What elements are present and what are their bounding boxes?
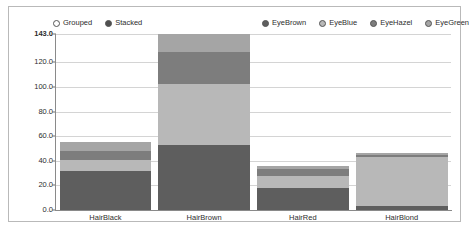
legend-marker-icon — [370, 20, 377, 27]
legend-marker-icon — [262, 20, 269, 27]
bar-segment-eyegreen[interactable] — [356, 153, 448, 154]
bar-segment-eyegreen[interactable] — [257, 166, 349, 170]
y-tick-label: 60.0 — [11, 132, 53, 140]
legend-label: EyeGreen — [435, 19, 469, 27]
bar-segment-eyebrown[interactable] — [356, 206, 448, 210]
bar-segment-eyegreen[interactable] — [60, 142, 152, 151]
plot-area — [56, 34, 451, 210]
legend-label: EyeBlue — [329, 19, 357, 27]
legend-label: EyeHazel — [380, 19, 412, 27]
legend-label: Grouped — [63, 19, 92, 27]
mode-legend-item-grouped[interactable]: Grouped — [53, 19, 92, 27]
bar-segment-eyeblue[interactable] — [257, 176, 349, 188]
bar-segment-eyehazel[interactable] — [60, 151, 152, 160]
mode-legend-item-stacked[interactable]: Stacked — [105, 19, 142, 27]
bar-segment-eyebrown[interactable] — [60, 171, 152, 210]
y-tick-label: 20.0 — [11, 182, 53, 190]
bar-segment-eyehazel[interactable] — [356, 155, 448, 157]
y-tick-label: 100.0 — [11, 83, 53, 91]
legend-label: EyeBrown — [272, 19, 306, 27]
legend-marker-icon — [319, 20, 326, 27]
bar-segment-eyeblue[interactable] — [356, 157, 448, 206]
x-tick-label: HairBlond — [352, 214, 451, 222]
x-tick-label: HairBlack — [56, 214, 155, 222]
series-legend-item-eyeblue[interactable]: EyeBlue — [319, 19, 357, 27]
x-axis-line — [55, 210, 452, 211]
y-tick-label: 40.0 — [11, 157, 53, 165]
series-legend-item-eyebrown[interactable]: EyeBrown — [262, 19, 306, 27]
x-tick-label: HairBrown — [155, 214, 254, 222]
bar-segment-eyebrown[interactable] — [158, 145, 250, 210]
series-legend[interactable]: EyeBrownEyeBlueEyeHazelEyeGreen — [262, 16, 469, 30]
chart-container: GroupedStacked EyeBrownEyeBlueEyeHazelEy… — [8, 6, 461, 222]
mode-legend[interactable]: GroupedStacked — [53, 16, 142, 30]
y-tick-label: 143.0 — [11, 30, 53, 38]
y-axis-labels: 143.0120.0100.080.060.040.020.00.0 — [9, 7, 53, 230]
y-tick-label: 0.0 — [11, 206, 53, 214]
y-tick-label: 120.0 — [11, 59, 53, 67]
legend-label: Stacked — [115, 19, 142, 27]
bar-segment-eyegreen[interactable] — [158, 34, 250, 52]
bar-segment-eyebrown[interactable] — [257, 188, 349, 210]
bar-segment-eyeblue[interactable] — [60, 160, 152, 171]
x-tick-label: HairRed — [254, 214, 353, 222]
series-legend-item-eyehazel[interactable]: EyeHazel — [370, 19, 412, 27]
bar-segment-eyeblue[interactable] — [158, 84, 250, 144]
bar-segment-eyehazel[interactable] — [158, 52, 250, 84]
bar-segment-eyehazel[interactable] — [257, 169, 349, 175]
series-legend-item-eyegreen[interactable]: EyeGreen — [425, 19, 469, 27]
bar-stack-hairblack[interactable] — [60, 34, 152, 210]
legend-marker-icon — [105, 20, 112, 27]
bar-stack-hairbrown[interactable] — [158, 34, 250, 210]
bar-stack-hairred[interactable] — [257, 34, 349, 210]
y-tick-label: 80.0 — [11, 108, 53, 116]
legend-marker-icon — [425, 20, 432, 27]
bar-stack-hairblond[interactable] — [356, 34, 448, 210]
legend-marker-icon — [53, 20, 60, 27]
